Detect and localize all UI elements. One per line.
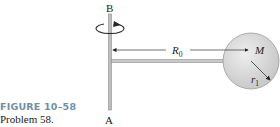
- label-mass: M: [254, 44, 265, 56]
- figure-caption-title: FIGURE 10–58: [0, 101, 76, 112]
- label-end-b: B: [106, 2, 113, 14]
- horizontal-rod: [112, 60, 226, 63]
- label-distance: R0: [171, 44, 183, 59]
- vertical-rod: [109, 14, 112, 110]
- label-end-a: A: [105, 114, 113, 126]
- figure-caption-subtitle: Problem 58.: [0, 113, 54, 125]
